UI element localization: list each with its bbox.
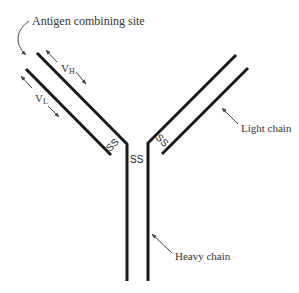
- antigen-site-arrow: [18, 21, 29, 55]
- antibody-diagram: Antigen combining site VH VL SS SS SS Li…: [0, 0, 299, 293]
- light-chain-right: [162, 68, 248, 154]
- light-chain-arrow: [222, 108, 238, 124]
- vh-arrow-down: [76, 72, 86, 84]
- vl-label: VL: [35, 92, 48, 106]
- ss-center-label: SS: [130, 154, 144, 165]
- vl-arrow-down: [48, 106, 59, 117]
- heavy-chain-left: [37, 53, 127, 281]
- heavy-chain-right: [148, 55, 236, 281]
- diagram-svg: Antigen combining site VH VL SS SS SS Li…: [0, 0, 299, 293]
- vl-arrow-up: [21, 76, 32, 88]
- vh-label: VH: [61, 62, 75, 76]
- antigen-site-label: Antigen combining site: [32, 14, 145, 28]
- vh-arrow-up: [46, 50, 57, 62]
- heavy-chain-label: Heavy chain: [175, 250, 231, 262]
- light-chain-label: Light chain: [241, 122, 292, 134]
- heavy-chain-arrow: [152, 234, 172, 253]
- light-chain-left: [26, 69, 111, 155]
